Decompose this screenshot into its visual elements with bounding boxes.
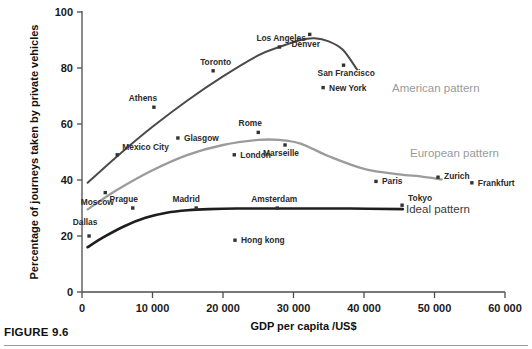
data-point-label: Marseille: [263, 148, 299, 158]
x-axis-tick-label: 40 000: [347, 302, 381, 314]
data-point-label: San Francisco: [318, 68, 375, 78]
data-point-label: Prague: [110, 194, 139, 204]
y-axis-title: Percentage of journeys taken by private …: [28, 25, 40, 280]
x-axis-tick-label: 10 000: [136, 302, 170, 314]
y-axis-tick-label: 0: [67, 286, 73, 298]
data-point: [436, 176, 439, 179]
curve-annotation: European pattern: [410, 147, 499, 159]
data-point: [152, 106, 155, 109]
axis-titles: GDP per capita /US$Percentage of journey…: [28, 25, 357, 332]
data-point: [104, 191, 107, 194]
data-point-label: Toronto: [200, 57, 231, 67]
axes: 020406080100010 00020 00030 00040 00050 …: [55, 6, 522, 314]
data-point-label: Amsterdam: [251, 194, 297, 204]
data-point: [342, 64, 345, 67]
data-point: [211, 69, 214, 72]
data-point: [195, 206, 198, 209]
data-point-label: Frankfurt: [478, 178, 515, 188]
data-point: [470, 181, 473, 184]
y-axis-tick-label: 20: [61, 230, 73, 242]
data-point: [283, 143, 286, 146]
y-axis-tick-label: 80: [61, 62, 73, 74]
data-point: [374, 180, 377, 183]
y-axis-tick-label: 40: [61, 174, 73, 186]
caption-divider: [4, 345, 528, 346]
scatter-chart: 020406080100010 00020 00030 00040 00050 …: [0, 0, 532, 349]
data-point: [400, 204, 403, 207]
data-point: [233, 153, 236, 156]
x-axis-tick-label: 60 000: [488, 302, 522, 314]
data-point: [116, 153, 119, 156]
data-point: [87, 234, 90, 237]
data-point-label: New York: [329, 83, 367, 93]
data-point-label: Athens: [129, 93, 158, 103]
y-axis-tick-label: 60: [61, 118, 73, 130]
data-point-label: Dallas: [73, 217, 98, 227]
x-axis-tick-label: 50 000: [418, 302, 452, 314]
data-point-label: Hong kong: [241, 235, 285, 245]
data-point: [176, 136, 179, 139]
data-point: [308, 33, 311, 36]
data-point-label: Denver: [292, 39, 321, 49]
data-point: [278, 45, 281, 48]
data-point: [233, 239, 236, 242]
curve-annotation: Ideal pattern: [406, 203, 470, 215]
data-point-label: Rome: [239, 118, 263, 128]
x-axis-tick-label: 20 000: [206, 302, 240, 314]
data-point-label: Glasgow: [184, 133, 219, 143]
data-point-label: Paris: [382, 176, 403, 186]
curve-annotation: American pattern: [392, 82, 480, 94]
data-point: [276, 206, 279, 209]
data-point: [321, 86, 324, 89]
x-axis-tick-label: 0: [79, 302, 85, 314]
data-point-label: Mexico City: [122, 142, 169, 152]
data-point-label: Madrid: [172, 194, 199, 204]
figure-9-6: 020406080100010 00020 00030 00040 00050 …: [0, 0, 532, 349]
data-point: [257, 131, 260, 134]
x-axis-title: GDP per capita /US$: [250, 320, 356, 332]
data-point: [131, 206, 134, 209]
data-point-label: Tokyo: [408, 193, 432, 203]
data-point-label: Zurich: [444, 171, 470, 181]
y-axis-tick-label: 100: [55, 6, 73, 18]
figure-caption: FIGURE 9.6: [4, 326, 69, 338]
x-axis-tick-label: 30 000: [277, 302, 311, 314]
